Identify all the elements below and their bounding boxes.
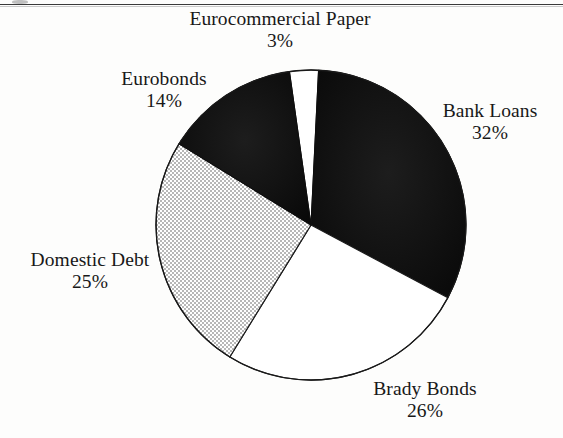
pie-label-bank-loans: Bank Loans 32% [420, 100, 560, 144]
chart-page: Eurocommercial Paper 3% Eurobonds 14% Ba… [0, 0, 563, 438]
pie-label-bank-loans-percent: 32% [420, 122, 560, 144]
pie-label-domestic-debt-name: Domestic Debt [0, 249, 180, 271]
pie-label-bank-loans-name: Bank Loans [420, 100, 560, 122]
pie-label-eurobonds: Eurobonds 14% [84, 68, 244, 112]
pie-chart-svg [0, 0, 563, 438]
pie-label-domestic-debt: Domestic Debt 25% [0, 249, 180, 293]
pie-label-eurocommercial-paper-name: Eurocommercial Paper [150, 8, 410, 30]
pie-label-eurocommercial-paper: Eurocommercial Paper 3% [150, 8, 410, 52]
pie-chart: Eurocommercial Paper 3% Eurobonds 14% Ba… [0, 0, 563, 438]
pie-label-brady-bonds: Brady Bonds 26% [340, 378, 510, 422]
pie-label-eurobonds-name: Eurobonds [84, 68, 244, 90]
pie-label-domestic-debt-percent: 25% [0, 271, 180, 293]
pie-label-eurocommercial-paper-percent: 3% [150, 30, 410, 52]
pie-label-brady-bonds-name: Brady Bonds [340, 378, 510, 400]
pie-label-brady-bonds-percent: 26% [340, 400, 510, 422]
pie-label-eurobonds-percent: 14% [84, 90, 244, 112]
